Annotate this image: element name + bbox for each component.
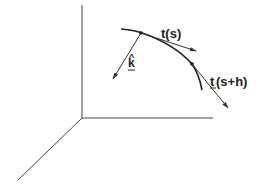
- k-hat-vector: [113, 33, 141, 79]
- diagonal-axis: [18, 118, 82, 180]
- t-sh-rest: (s+h): [216, 74, 247, 89]
- label-k-hat: ^ k: [128, 52, 135, 70]
- label-t-s-plus-h: t (s+h): [210, 74, 247, 89]
- coordinate-axes: [18, 5, 213, 180]
- diagram-canvas: t(s) ^ k t (s+h): [0, 0, 263, 194]
- k-hat-letter: k: [128, 56, 135, 70]
- t-sh-letter: t: [210, 74, 215, 89]
- label-t-s: t(s): [161, 26, 181, 41]
- space-curve-diagram: t(s) ^ k t (s+h): [0, 0, 263, 194]
